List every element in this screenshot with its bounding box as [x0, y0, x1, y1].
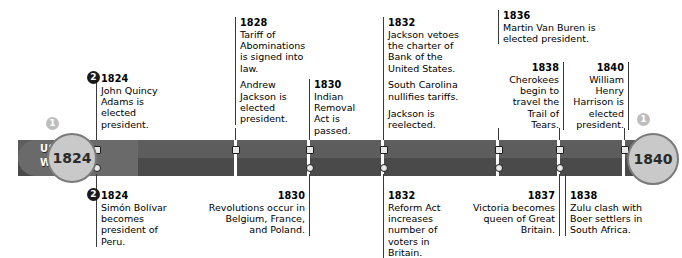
- event-usa-1828: 1828 Tariff of Abominations is signed in…: [235, 17, 306, 125]
- event-year: 1828: [240, 17, 306, 28]
- event-usa-1830: 1830 Indian Removal Act is passed.: [309, 79, 362, 136]
- event-usa-1836: 1836 Martin Van Buren is elected preside…: [498, 10, 610, 44]
- event-line: John Quincy Adams is elected president.: [101, 85, 163, 130]
- event-year: 1840: [562, 62, 624, 73]
- event-line: Andrew Jackson is elected president.: [240, 79, 306, 124]
- badge-world-lane-marker-bottom: 2: [87, 188, 100, 201]
- connector-world-1830: [309, 174, 310, 190]
- event-usa-1840: 1840 William Henry Harrison is elected p…: [562, 62, 629, 130]
- timeline-marker-usa: [380, 146, 388, 154]
- event-world-1824: 1824 Simón Bolívar becomes president of …: [96, 190, 173, 247]
- timeline-start-year: 1824: [47, 133, 97, 183]
- timeline-marker-world: [380, 164, 388, 172]
- event-year: 1838: [570, 190, 660, 201]
- connector-world-1832: [383, 174, 384, 190]
- event-line: Jackson is reelected.: [388, 108, 467, 131]
- event-line: Jackson vetoes the charter of Bank of th…: [388, 29, 467, 74]
- connector-world-1837: [559, 174, 560, 190]
- event-line: Indian Removal Act is passed.: [314, 91, 362, 136]
- event-year: 1832: [388, 190, 450, 201]
- event-usa-1832: 1832 Jackson vetoes the charter of Bank …: [383, 17, 467, 130]
- badge-usa-lane-marker-end: 1: [637, 113, 650, 126]
- timeline-marker-world: [556, 164, 564, 172]
- timeline-marker-usa: [232, 146, 240, 154]
- timeline-end-year: 1840: [627, 133, 679, 185]
- event-world-1838: 1838 Zulu clash with Boer settlers in So…: [565, 190, 660, 236]
- event-year: 1838: [497, 62, 559, 73]
- timeline-marker-usa: [495, 146, 503, 154]
- event-world-1837: 1837 Victoria becomes queen of Great Bri…: [458, 190, 560, 236]
- event-usa-1824: 1824 John Quincy Adams is elected presid…: [96, 73, 163, 130]
- event-line: Martin Van Buren is elected president.: [503, 22, 610, 45]
- event-year: 1837: [458, 190, 555, 201]
- event-line: Simón Bolívar becomes president of Peru.: [101, 202, 173, 247]
- event-world-1830: 1830 Revolutions occur in Belgium, Franc…: [205, 190, 310, 236]
- event-year: 1824: [101, 190, 173, 201]
- timeline-marker-usa: [306, 146, 314, 154]
- event-world-1832: 1832 Reform Act increases number of vote…: [383, 190, 450, 258]
- event-line: Revolutions occur in Belgium, France, an…: [205, 202, 305, 236]
- event-year: 1832: [388, 17, 467, 28]
- event-year: 1824: [101, 73, 163, 84]
- timeline-marker-usa: [556, 146, 564, 154]
- badge-world-lane-marker-1824: 2: [87, 71, 100, 84]
- timeline-bar: USA World: [18, 140, 664, 176]
- event-line: Victoria becomes queen of Great Britain.: [458, 202, 555, 236]
- event-year: 1830: [205, 190, 305, 201]
- connector-world-1838: [565, 174, 566, 190]
- event-year: 1830: [314, 79, 362, 90]
- timeline-marker-world: [495, 164, 503, 172]
- event-line: Zulu clash with Boer settlers in South A…: [570, 202, 660, 236]
- badge-usa-lane-marker-start: 1: [46, 117, 59, 130]
- event-line: Tariff of Abominations is signed into la…: [240, 29, 306, 74]
- timeline-marker-world: [306, 164, 314, 172]
- event-line: Cherokees begin to travel the Trail of T…: [497, 74, 559, 130]
- event-usa-1838: 1838 Cherokees begin to travel the Trail…: [497, 62, 564, 130]
- event-year: 1836: [503, 10, 610, 21]
- event-line: William Henry Harrison is elected presid…: [562, 74, 624, 130]
- event-line: Reform Act increases number of voters in…: [388, 202, 450, 258]
- event-line: South Carolina nullifies tariffs.: [388, 79, 467, 102]
